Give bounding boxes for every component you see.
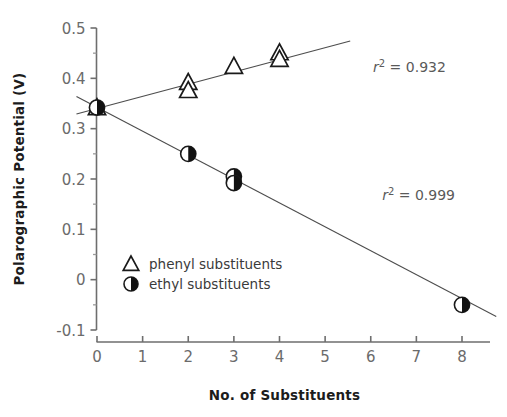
x-tick-label: 6 — [366, 348, 376, 366]
marker-open-triangle — [123, 256, 139, 270]
marker-open-triangle — [225, 57, 242, 73]
r2-ethyl: r2 = 0.999 — [382, 186, 455, 204]
y-tick-label: 0.2 — [62, 171, 86, 189]
marker-half-filled-circle — [124, 277, 138, 291]
x-axis-title: No. of Substituents — [209, 387, 360, 403]
marker-half-filled-circle — [181, 146, 196, 161]
trend-line-phenyl — [76, 41, 350, 114]
x-tick-label: 3 — [229, 348, 239, 366]
marker-half-filled-circle — [226, 175, 241, 190]
series-ethyl — [89, 100, 469, 313]
y-tick-label: 0.1 — [62, 221, 86, 239]
chart-legend: phenyl substituentsethyl substituents — [123, 256, 282, 292]
trend-line-ethyl — [76, 96, 496, 316]
y-tick-label: 0.4 — [62, 70, 86, 88]
marker-half-filled-circle — [89, 100, 104, 115]
y-axis-title: Polarographic Potential (V) — [11, 73, 27, 286]
y-tick-label: 0.5 — [62, 20, 86, 38]
legend-label: phenyl substituents — [149, 256, 282, 272]
y-tick-label: 0.3 — [62, 120, 86, 138]
x-tick-label: 4 — [275, 348, 285, 366]
x-tick-label: 2 — [183, 348, 193, 366]
chart-svg: 0.50.40.30.20.10-0.1012345678No. of Subs… — [0, 0, 507, 417]
polarographic-potential-chart: 0.50.40.30.20.10-0.1012345678No. of Subs… — [0, 0, 507, 417]
x-tick-label: 0 — [92, 348, 102, 366]
x-tick-label: 7 — [412, 348, 422, 366]
r2-phenyl: r2 = 0.932 — [373, 58, 446, 76]
marker-half-filled-circle — [454, 297, 469, 312]
y-tick-label: 0 — [76, 271, 86, 289]
series-phenyl — [88, 44, 288, 115]
legend-label: ethyl substituents — [149, 276, 270, 292]
y-tick-label: -0.1 — [56, 322, 85, 340]
x-tick-label: 8 — [457, 348, 467, 366]
x-tick-label: 1 — [138, 348, 148, 366]
x-tick-label: 5 — [320, 348, 330, 366]
